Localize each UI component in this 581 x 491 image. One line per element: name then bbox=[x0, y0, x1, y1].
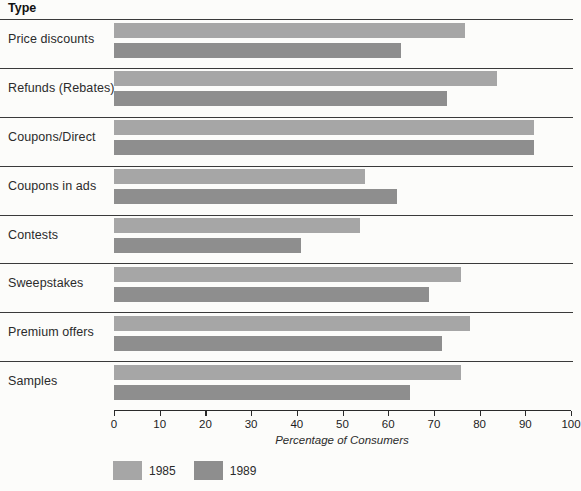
axis-tick bbox=[205, 411, 206, 416]
legend-item-1985: 1985 bbox=[113, 461, 176, 480]
x-axis-title: Percentage of Consumers bbox=[114, 434, 570, 446]
legend-item-1989: 1989 bbox=[194, 461, 257, 480]
category-group: Refunds (Rebates) bbox=[0, 68, 573, 117]
category-group: Samples bbox=[0, 361, 573, 410]
category-label: Price discounts bbox=[8, 32, 94, 46]
bar-pair bbox=[114, 264, 570, 313]
bar-1985 bbox=[114, 120, 534, 135]
category-label: Premium offers bbox=[8, 325, 94, 339]
bar-1989 bbox=[114, 189, 397, 204]
bar-1989 bbox=[114, 385, 410, 400]
bar-1989 bbox=[114, 43, 401, 58]
category-label: Coupons/Direct bbox=[8, 130, 96, 144]
category-label: Coupons in ads bbox=[8, 179, 96, 193]
bar-1989 bbox=[114, 287, 429, 302]
bar-pair bbox=[114, 69, 570, 118]
axis-tick-label: 60 bbox=[382, 418, 395, 430]
bar-chart: Price discountsRefunds (Rebates)Coupons/… bbox=[0, 19, 573, 410]
category-group: Price discounts bbox=[0, 19, 573, 68]
bar-1985 bbox=[114, 316, 470, 331]
bar-1989 bbox=[114, 140, 534, 155]
axis-tick bbox=[160, 411, 161, 416]
axis-tick-label: 80 bbox=[473, 418, 486, 430]
axis-tick bbox=[251, 411, 252, 416]
axis-tick bbox=[297, 411, 298, 416]
category-label: Samples bbox=[8, 374, 57, 388]
bar-pair bbox=[114, 167, 570, 216]
bar-1985 bbox=[114, 169, 365, 184]
category-group: Premium offers bbox=[0, 312, 573, 361]
axis-tick-label: 50 bbox=[336, 418, 349, 430]
axis-tick-label: 100 bbox=[561, 418, 580, 430]
axis-tick-label: 30 bbox=[245, 418, 258, 430]
bar-1985 bbox=[114, 365, 461, 380]
axis-tick-label: 70 bbox=[427, 418, 440, 430]
legend-label-1985: 1985 bbox=[149, 464, 176, 478]
category-group: Contests bbox=[0, 215, 573, 264]
bar-1985 bbox=[114, 267, 461, 282]
bar-1989 bbox=[114, 336, 442, 351]
bar-pair bbox=[114, 118, 570, 167]
axis-tick-label: 10 bbox=[153, 418, 166, 430]
bar-1989 bbox=[114, 238, 301, 253]
legend-label-1989: 1989 bbox=[230, 464, 257, 478]
category-group: Coupons/Direct bbox=[0, 117, 573, 166]
bar-pair bbox=[114, 313, 570, 362]
category-label: Contests bbox=[8, 228, 58, 242]
figure: Type Price discountsRefunds (Rebates)Cou… bbox=[0, 0, 581, 491]
bar-pair bbox=[114, 216, 570, 265]
y-axis-header: Type bbox=[8, 1, 36, 15]
legend-swatch-1989 bbox=[194, 461, 223, 480]
axis-tick bbox=[571, 411, 572, 416]
category-label: Refunds (Rebates) bbox=[8, 81, 115, 95]
category-group: Sweepstakes bbox=[0, 263, 573, 312]
legend: 1985 1989 bbox=[113, 461, 256, 480]
axis-tick bbox=[434, 411, 435, 416]
axis-tick bbox=[525, 411, 526, 416]
axis-tick bbox=[388, 411, 389, 416]
category-label: Sweepstakes bbox=[8, 276, 83, 290]
axis-tick bbox=[114, 411, 115, 416]
bar-1989 bbox=[114, 91, 447, 106]
bar-1985 bbox=[114, 23, 465, 38]
axis-tick bbox=[480, 411, 481, 416]
legend-swatch-1985 bbox=[113, 461, 142, 480]
bar-pair bbox=[114, 20, 570, 69]
axis-tick-label: 90 bbox=[519, 418, 532, 430]
axis-tick bbox=[343, 411, 344, 416]
category-group: Coupons in ads bbox=[0, 166, 573, 215]
axis-tick-label: 0 bbox=[111, 418, 117, 430]
bar-1985 bbox=[114, 71, 497, 86]
axis-tick-label: 40 bbox=[290, 418, 303, 430]
bar-pair bbox=[114, 362, 570, 411]
bar-1985 bbox=[114, 218, 360, 233]
axis-tick-label: 20 bbox=[199, 418, 212, 430]
